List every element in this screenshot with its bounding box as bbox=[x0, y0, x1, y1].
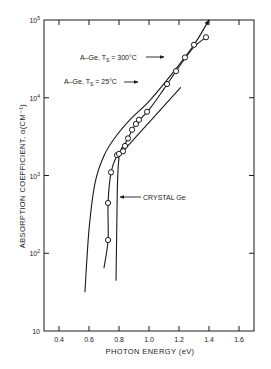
data-markers bbox=[105, 35, 208, 243]
x-tick-label: 1.4 bbox=[204, 336, 214, 343]
data-point-marker bbox=[144, 109, 149, 114]
absorption-chart: 0.40.60.81.01.21.41.6 10102103104105 A–G… bbox=[0, 0, 271, 369]
x-tick-label: 1.0 bbox=[144, 336, 154, 343]
plot-border bbox=[44, 20, 254, 331]
data-point-marker bbox=[129, 127, 134, 132]
data-point-marker bbox=[120, 149, 125, 154]
data-point-marker bbox=[191, 42, 196, 47]
data-point-marker bbox=[125, 136, 130, 141]
y-tick-label: 10 bbox=[32, 328, 40, 335]
x-axis-label: PHOTON ENERGY (eV) bbox=[105, 347, 194, 356]
data-point-marker bbox=[122, 143, 127, 148]
label-ag-25c: A–Ge, TS = 25°C bbox=[64, 78, 117, 87]
data-point-marker bbox=[164, 81, 169, 86]
data-point-marker bbox=[105, 237, 110, 242]
x-tick-label: 0.4 bbox=[54, 336, 64, 343]
label-ag-300c: A–Ge, TS = 300°C bbox=[80, 54, 137, 63]
x-tick-label: 1.2 bbox=[174, 336, 184, 343]
x-tick-label: 1.6 bbox=[234, 336, 244, 343]
y-tick-label: 103 bbox=[29, 171, 40, 180]
y-tick-label: 102 bbox=[29, 248, 40, 257]
y-tick-label: 104 bbox=[29, 93, 40, 102]
y-axis-ticks: 10102103104105 bbox=[29, 15, 254, 335]
data-point-marker bbox=[136, 117, 141, 122]
data-point-marker bbox=[203, 35, 208, 40]
plot-frame bbox=[44, 20, 254, 331]
label-crystal-ge: CRYSTAL Ge bbox=[143, 194, 186, 201]
data-point-marker bbox=[182, 55, 187, 60]
curve-crystal-ge bbox=[116, 147, 122, 280]
data-point-marker bbox=[105, 200, 110, 205]
data-point-marker bbox=[173, 69, 178, 74]
y-tick-label: 105 bbox=[29, 15, 40, 24]
data-point-marker bbox=[108, 170, 113, 175]
x-tick-label: 0.6 bbox=[84, 336, 94, 343]
annotations: A–Ge, TS = 300°CA–Ge, TS = 25°CCRYSTAL G… bbox=[64, 54, 186, 201]
y-axis-label: ABSORPTION COEFFICIENT, α(CM⁻¹) bbox=[18, 104, 27, 249]
x-tick-label: 0.8 bbox=[114, 336, 124, 343]
x-axis-ticks: 0.40.60.81.01.21.41.6 bbox=[54, 20, 244, 343]
